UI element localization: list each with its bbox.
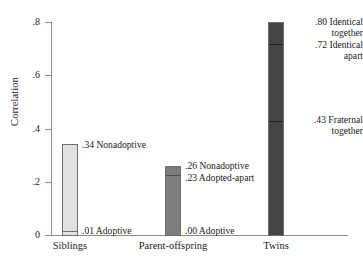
annotation-parent-adopted-apart: .23 Adopted-apart [185,172,254,183]
bar-twins-divider-identical-apart [269,44,283,45]
bar-twins [268,22,284,236]
y-tick-label-06: .6 [14,70,40,80]
bar-twins-divider-fraternal-together [269,121,283,122]
bar-parent-divider-adopted-apart [166,175,180,176]
annotation-twins-identical-together-line2: together [332,27,363,38]
annotation-parent-adoptive: .00 Adoptive [185,225,235,236]
y-tick-label-08: .8 [14,17,40,27]
annotation-twins-identical-together-line1: .80 Identical [315,16,363,27]
annotation-siblings-adoptive: .01 Adoptive [82,225,132,236]
annotation-twins-identical-apart-line2: apart [344,50,363,61]
annotation-twins-fraternal-together: .43 Fraternal together [287,114,363,136]
y-tick-mark-04 [45,129,51,130]
annotation-parent-nonadoptive: .26 Nonadoptive [185,160,249,171]
x-category-label-parent-offspring: Parent-offspring [113,240,233,251]
annotation-twins-identical-apart-line1: .72 Identical [315,39,363,50]
y-axis-line [51,22,52,236]
x-category-label-siblings: Siblings [30,240,110,251]
bar-siblings [62,144,78,236]
annotation-twins-fraternal-together-line2: together [332,125,363,136]
annotation-twins-identical-together: .80 Identical together [287,16,363,38]
annotation-twins-identical-apart: .72 Identical apart [287,39,363,61]
annotation-twins-fraternal-together-line1: .43 Fraternal [314,114,363,125]
y-tick-mark-08 [45,22,51,23]
x-category-label-twins: Twins [236,240,316,251]
y-tick-mark-02 [45,182,51,183]
correlation-bar-chart: Correlation .8 .6 .4 .2 0 .34 Nonadoptiv… [0,0,363,266]
y-tick-mark-06 [45,75,51,76]
y-tick-label-04: .4 [14,124,40,134]
bar-siblings-divider-adoptive [63,231,77,232]
bar-parent-offspring [165,166,181,236]
y-tick-label-0: 0 [14,230,40,240]
y-tick-mark-0 [45,235,51,236]
annotation-siblings-nonadoptive: .34 Nonadoptive [82,139,146,150]
y-tick-label-02: .2 [14,177,40,187]
